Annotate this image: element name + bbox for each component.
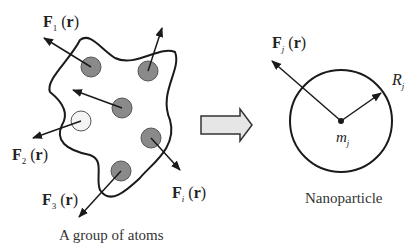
force-label-j: Fj (r) — [272, 34, 306, 54]
force-arrow-3 — [79, 171, 121, 217]
nanoparticle-caption: Nanoparticle — [305, 190, 383, 206]
diagram-canvas: F1 (r) F2 (r) F3 (r) Fi (r) A group of a… — [0, 0, 418, 247]
force-arrow-i — [151, 138, 180, 170]
force-label-i: Fi (r) — [172, 184, 206, 204]
force-arrow-2 — [33, 121, 81, 138]
nanoparticle: Fj (r) Rj mj Nanoparticle — [272, 34, 405, 206]
force-arrow-j — [272, 61, 341, 121]
group-caption: A group of atoms — [59, 227, 164, 243]
radius-label: Rj — [391, 71, 405, 91]
force-label-3: F3 (r) — [42, 191, 78, 211]
mass-label: mj — [336, 129, 350, 148]
transition-arrow-icon — [201, 109, 252, 141]
force-arrow-1 — [44, 38, 91, 67]
force-label-2: F2 (r) — [12, 146, 48, 166]
atom-group: F1 (r) F2 (r) F3 (r) Fi (r) A group of a… — [12, 13, 206, 243]
force-label-1: F1 (r) — [43, 13, 79, 33]
force-arrow — [73, 90, 122, 108]
radius-arrow — [341, 93, 381, 121]
